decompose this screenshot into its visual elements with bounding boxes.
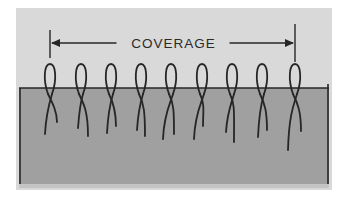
coverage-label: COVERAGE: [131, 36, 216, 51]
coverage-diagram: COVERAGE: [0, 0, 348, 200]
skin-surface: [19, 88, 329, 184]
